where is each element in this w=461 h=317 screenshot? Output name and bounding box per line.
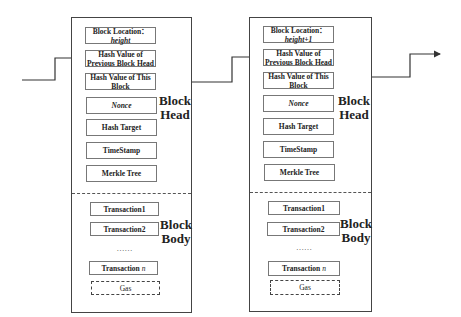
field-transaction-2: Transaction2 (267, 222, 340, 236)
field-value: height (111, 36, 131, 45)
arrow-out-of-block-2 (372, 54, 440, 77)
field-label: Merkle Tree (102, 169, 141, 178)
label-line: Head (336, 108, 372, 122)
field-label-2: Block (111, 82, 129, 91)
label-line: Block (340, 217, 372, 231)
field-prev-hash: Hash Value of Previous Block Head (263, 49, 334, 66)
ellipsis: …… (90, 244, 159, 253)
field-label: Transaction n (102, 264, 146, 273)
label-line: Body (160, 232, 192, 246)
field-label: Transaction1 (104, 205, 146, 214)
field-label: Transaction2 (283, 225, 325, 234)
label-suffix: n (142, 264, 146, 273)
block-1: Block Location： height Hash Value of Pre… (71, 17, 192, 313)
field-label: Transaction2 (104, 225, 146, 234)
field-timestamp: TimeStamp (263, 141, 334, 158)
field-label-2: Previous Block Head (265, 58, 332, 67)
field-label-2: Block (289, 81, 307, 90)
block-2: Block Location： height+1 Hash Value of P… (249, 17, 372, 312)
ellipsis: …… (268, 243, 340, 252)
label-suffix: n (322, 264, 326, 273)
block-head-label: Block Head (336, 94, 372, 122)
field-label: TimeStamp (103, 146, 140, 155)
field-hash-target: Hash Target (86, 119, 157, 136)
field-label: Nonce (112, 101, 132, 110)
field-label: Gas (120, 284, 132, 293)
label-line: Body (340, 231, 372, 245)
field-label: Gas (299, 283, 311, 292)
label-text: Transaction (282, 264, 322, 273)
label-line: Head (158, 108, 192, 122)
field-label-2: Previous Block Head (87, 59, 154, 68)
field-label: Transaction n (282, 264, 326, 273)
field-block-location: Block Location： height+1 (263, 26, 334, 43)
field-hash-target: Hash Target (263, 118, 334, 135)
field-transaction-1: Transaction1 (90, 202, 159, 216)
field-transaction-1: Transaction1 (268, 201, 340, 215)
head-body-separator (250, 192, 371, 193)
head-body-separator (72, 193, 191, 194)
field-label: Hash Target (279, 122, 318, 131)
field-gas: Gas (270, 280, 340, 295)
field-label: Hash Target (102, 123, 141, 132)
field-value: height+1 (285, 35, 313, 44)
field-label: Transaction1 (283, 204, 325, 213)
field-prev-hash: Hash Value of Previous Block Head (85, 50, 156, 67)
connector-arrows (0, 0, 461, 317)
field-gas: Gas (91, 281, 160, 295)
field-this-hash: Hash Value of This Block (263, 72, 334, 89)
field-transaction-n: Transaction n (89, 261, 158, 275)
field-label: Block Location： (93, 27, 149, 36)
field-label: Block Location： (271, 26, 327, 35)
label-text: Transaction (102, 264, 142, 273)
field-nonce: Nonce (86, 97, 157, 114)
field-label: Merkle Tree (280, 168, 319, 177)
field-timestamp: TimeStamp (86, 142, 157, 159)
field-transaction-n: Transaction n (268, 261, 340, 276)
field-label: Nonce (289, 99, 309, 108)
field-merkle-tree: Merkle Tree (264, 164, 335, 181)
field-label: Hash Value of (98, 50, 143, 59)
label-line: Block (160, 218, 192, 232)
label-line: Block (158, 94, 192, 108)
label-line: Block (336, 94, 372, 108)
field-label: Hash Value of This (268, 72, 329, 81)
field-label: Hash Value of This (90, 73, 151, 82)
field-transaction-2: Transaction2 (90, 222, 159, 236)
field-label: Hash Value of (276, 49, 321, 58)
field-this-hash: Hash Value of This Block (85, 73, 156, 90)
block-body-label: Block Body (340, 217, 372, 245)
field-label: TimeStamp (280, 145, 317, 154)
field-merkle-tree: Merkle Tree (86, 165, 157, 182)
block-body-label: Block Body (160, 218, 192, 246)
field-nonce: Nonce (263, 95, 334, 112)
field-block-location: Block Location： height (85, 27, 156, 44)
block-head-label: Block Head (158, 94, 192, 122)
